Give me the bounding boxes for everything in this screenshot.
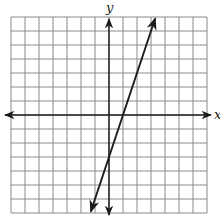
x-axis-label: x [214,107,220,122]
y-axis-label: y [105,0,114,15]
coordinate-plane: x y [0,0,220,218]
axes [5,19,211,215]
